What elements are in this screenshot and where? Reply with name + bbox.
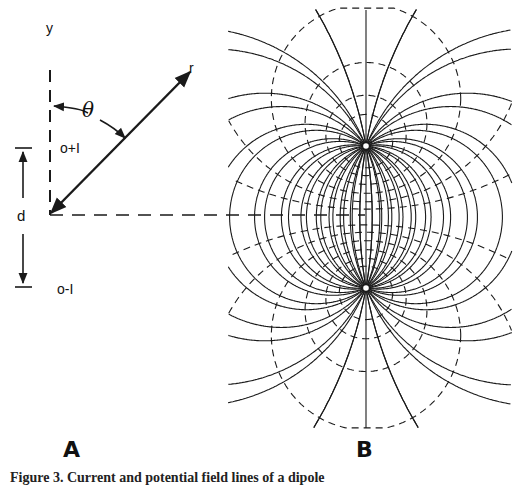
negative-electrode (363, 285, 370, 292)
current-line (316, 10, 373, 218)
current-line (229, 217, 392, 328)
current-line (306, 145, 450, 289)
panel-label-a: A (63, 437, 80, 462)
negative-source-label: o-I (57, 281, 73, 297)
current-line (316, 10, 373, 218)
current-line (360, 10, 418, 428)
current-field-lines (228, 10, 512, 429)
panel-label-b: B (356, 437, 373, 462)
current-line (360, 10, 418, 428)
distance-label: d (17, 207, 25, 224)
current-line (314, 217, 372, 428)
angle-arc-2 (100, 120, 125, 138)
equipotential-lines (229, 8, 512, 428)
figure-caption: Figure 3. Current and potential field li… (10, 470, 325, 486)
radius-label: r (189, 60, 194, 76)
theta-label: θ (82, 98, 94, 122)
y-axis-label: y (46, 20, 53, 36)
current-line (281, 145, 425, 289)
current-line (314, 217, 372, 428)
current-line (229, 107, 392, 218)
positive-electrode (363, 143, 370, 150)
positive-source-label: o+I (60, 140, 80, 156)
